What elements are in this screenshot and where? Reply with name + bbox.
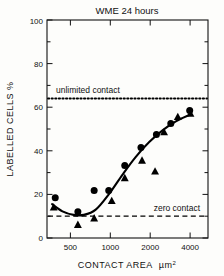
data-point-circle-2 (91, 187, 98, 194)
y-tick-label-60: 60 (34, 103, 43, 112)
x-tick-label-2000: 2000 (141, 243, 159, 252)
y-tick-label-80: 80 (34, 60, 43, 69)
x-tick-label-4000: 4000 (181, 243, 199, 252)
data-point-circle-1 (74, 208, 81, 215)
y-axis-label: LABELLED CELLS % (5, 81, 15, 176)
data-point-circle-0 (52, 194, 59, 201)
y-tick-label-100: 100 (30, 17, 44, 26)
y-tick-label-40: 40 (34, 147, 43, 156)
chart-title: WME 24 hours (96, 5, 159, 16)
x-tick-label-500: 500 (64, 243, 78, 252)
zero-contact-label: zero contact (154, 203, 201, 213)
x-tick-label-1000: 1000 (101, 243, 119, 252)
data-point-circle-7 (167, 120, 174, 127)
chart-figure: WME 24 hours 0 20 40 60 80 100 (0, 0, 224, 276)
y-tick-label-20: 20 (34, 190, 43, 199)
y-tick-label-0: 0 (39, 234, 44, 243)
data-point-circle-4 (121, 162, 128, 169)
data-point-circle-5 (137, 144, 144, 151)
data-point-circle-3 (105, 187, 112, 194)
data-point-circle-6 (153, 131, 160, 138)
unlimited-contact-label: unlimited contact (56, 85, 120, 95)
x-axis-label: CONTACT AREAµm2 (78, 260, 177, 270)
